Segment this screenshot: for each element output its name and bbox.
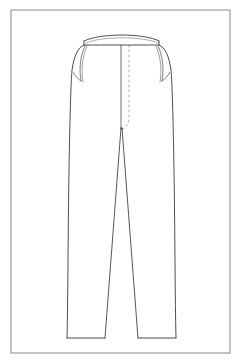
sketch-canvas: Trousers Technical Flat — Front View [0, 0, 241, 361]
trousers-flat-sketch: Trousers Technical Flat — Front View [0, 0, 241, 361]
crotch-point [121, 128, 123, 130]
